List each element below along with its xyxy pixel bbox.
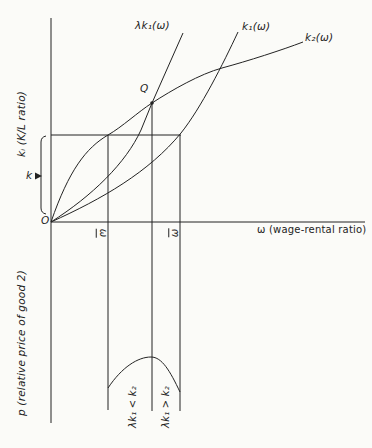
point-q-label: Q [140,83,148,94]
p-axis-label: p (relative price of good 2) [16,270,27,416]
y-axis-label: kᵢ (K/L ratio) [16,91,27,157]
x-axis-label: ω (wage-rental ratio) [257,225,366,235]
region-label-left: λk₁ < k₂ [128,386,138,428]
figure-two-sector-model: λk₁(ω) k₁(ω) k₂(ω) Q O k kᵢ (K/L ratio) … [0,0,372,448]
point-q-dot [150,101,154,105]
k-brace [41,136,46,214]
curve-lambda-k1 [51,33,183,222]
curve-label-lambda-k1: λk₁(ω) [135,20,170,31]
k-brace-label: k [26,170,32,181]
omega-lower-tick-label: ω [96,229,108,238]
region-label-right: λk₁ > k₂ [161,386,171,428]
curve-k2 [51,42,303,222]
curve-label-k1: k₁(ω) [242,21,270,32]
curve-k1 [51,32,238,222]
curve-label-k2: k₂(ω) [305,32,333,43]
omega-upper-tick-label: ω [168,229,180,238]
origin-label: O [41,215,49,226]
